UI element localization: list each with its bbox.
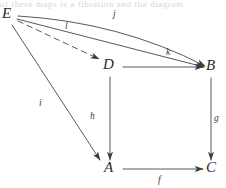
- node-C: C: [206, 160, 216, 175]
- node-D: D: [103, 57, 114, 72]
- edge-label-h: h: [90, 112, 95, 122]
- node-B: B: [206, 58, 215, 73]
- figure-canvas: of these maps is a fibration and the dia…: [0, 0, 226, 188]
- edge-label-g: g: [214, 114, 219, 124]
- edge-label-i: i: [39, 99, 42, 109]
- edge-i-arrow: [12, 25, 100, 160]
- edge-label-l: l: [65, 22, 68, 32]
- node-E: E: [2, 6, 11, 21]
- node-A: A: [104, 160, 113, 175]
- edge-label-k: k: [166, 48, 170, 58]
- edge-label-f: f: [158, 176, 161, 186]
- edge-label-j: j: [113, 10, 116, 20]
